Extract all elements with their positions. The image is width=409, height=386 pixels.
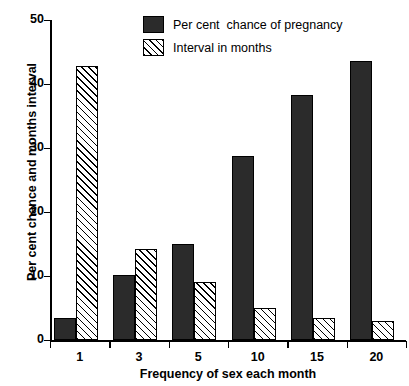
chart-title <box>120 0 340 6</box>
x-tick-mark <box>287 341 288 348</box>
y-tick-mark <box>44 212 50 213</box>
legend-swatch-solid-icon <box>143 16 164 33</box>
x-tick-mark <box>347 341 348 348</box>
y-tick-label: 20 <box>4 204 44 218</box>
y-axis-label: Per cent chance and months interval <box>25 57 39 287</box>
legend-label-interval: Interval in months <box>173 41 272 55</box>
legend-label-pregnancy: Per cent chance of pregnancy <box>173 18 343 32</box>
x-tick-label: 20 <box>346 350 406 364</box>
y-tick-label: 10 <box>4 268 44 282</box>
x-tick-label: 15 <box>287 350 347 364</box>
legend-item-interval: Interval in months <box>143 36 343 59</box>
bar-pregnancy-10 <box>232 156 254 340</box>
bar-interval-5 <box>194 282 216 340</box>
bar-pregnancy-5 <box>172 244 194 340</box>
bar-interval-1 <box>76 66 98 340</box>
y-tick-label: 50 <box>4 12 44 26</box>
x-tick-label: 1 <box>50 350 110 364</box>
y-tick-label: 40 <box>4 76 44 90</box>
bar-pregnancy-20 <box>350 61 372 340</box>
y-tick-mark <box>44 84 50 85</box>
x-tick-label: 10 <box>228 350 288 364</box>
legend-swatch-hatch-icon <box>143 39 164 56</box>
x-tick-mark <box>406 341 407 348</box>
x-tick-label: 3 <box>109 350 169 364</box>
y-axis-line <box>50 20 52 341</box>
x-axis-label: Frequency of sex each month <box>50 367 406 381</box>
bar-interval-15 <box>313 318 335 340</box>
x-tick-mark <box>228 341 229 348</box>
y-tick-mark <box>44 20 50 21</box>
y-tick-label: 30 <box>4 140 44 154</box>
x-tick-mark <box>169 341 170 348</box>
bar-interval-3 <box>135 249 157 340</box>
y-tick-mark <box>44 276 50 277</box>
legend-item-pregnancy: Per cent chance of pregnancy <box>143 13 343 36</box>
bar-interval-10 <box>254 308 276 340</box>
bar-pregnancy-1 <box>54 318 76 340</box>
bar-chart: Per cent chance and months interval 0102… <box>0 0 409 386</box>
x-tick-mark <box>50 341 51 348</box>
y-tick-label: 0 <box>4 332 44 346</box>
bar-pregnancy-15 <box>291 95 313 340</box>
x-tick-mark <box>109 341 110 348</box>
chart-legend: Per cent chance of pregnancy Interval in… <box>143 13 343 59</box>
bar-pregnancy-3 <box>113 275 135 340</box>
x-tick-label: 5 <box>168 350 228 364</box>
y-tick-mark <box>44 148 50 149</box>
bar-interval-20 <box>372 321 394 340</box>
